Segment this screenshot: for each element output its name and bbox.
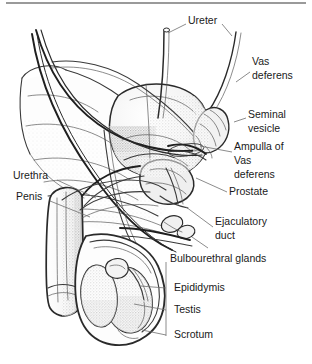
leader-prostate [196,178,227,192]
leader-vas [236,72,250,82]
label-ampulla: Ampulla of [234,140,284,152]
label-epididymis: Epididymis [174,281,225,293]
label-ejaculatory-duct-2: duct [215,229,235,241]
label-testis: Testis [174,303,201,315]
label-prostate: Prostate [229,185,268,197]
label-ejaculatory-duct: Ejaculatory [215,215,268,227]
leader-ureter-left [168,24,186,33]
label-seminal-vesicle: Seminal [248,108,286,120]
label-ampulla-2: Vas [234,154,251,166]
leader-seminal [234,118,246,122]
label-vas-deferens-2: deferens [252,69,293,81]
leader-bulbo [192,237,208,248]
label-urethra: Urethra [13,169,48,181]
label-bulbourethral-glands: Bulbourethral glands [170,252,266,264]
label-ureter: Ureter [188,14,218,26]
anatomy-illustration: UreterVasdeferensSeminalvesicleAmpulla o… [0,0,312,364]
top-divider-rule [6,2,306,4]
label-seminal-vesicle-2: vesicle [248,122,280,134]
anatomy-figure: UreterVasdeferensSeminalvesicleAmpulla o… [0,0,312,364]
leader-ejac [186,207,213,227]
label-penis: Penis [16,190,42,202]
label-scrotum: Scrotum [174,328,213,340]
label-ampulla-3: deferens [234,168,275,180]
label-vas-deferens: Vas [252,55,269,67]
leader-ureter-right [222,24,232,36]
